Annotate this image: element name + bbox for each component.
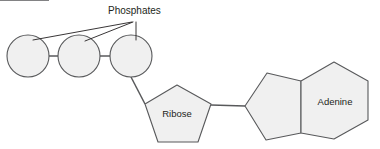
bond-ribose-adenine-seg [211,105,245,106]
adenine-group: Adenine [245,62,368,140]
phosphate-circle-1 [7,35,49,77]
nucleotide-diagram-canvas: Ribose Adenine Phosphates [0,0,380,149]
phosphates-annotation-label: Phosphates [108,5,161,16]
adenine-label: Adenine [318,96,353,107]
phosphate-circle-3 [110,35,152,77]
phosphate-circle-2 [58,35,100,77]
phosphate-group [7,35,152,77]
ribose-group: Ribose [145,85,211,142]
adenine-imidazole-pentagon [245,73,301,140]
bond-p3-ribose-seg [131,77,145,104]
ribose-label: Ribose [162,108,192,119]
nucleotide-diagram: Ribose Adenine Phosphates [0,0,380,149]
